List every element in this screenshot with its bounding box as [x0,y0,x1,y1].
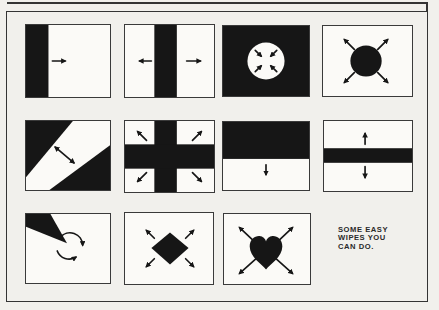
arrow-curved-icon [57,251,76,259]
arrow-double-diagonal-icon [55,147,74,163]
caption-line-3: CAN DO. [338,243,388,251]
arrow-outward-icon [378,40,388,50]
page-top-rule [7,2,428,4]
diagonal-band-wipe-icon [26,121,110,190]
arrow-outward-icon [138,173,147,182]
arrow-outward-icon [345,40,355,50]
arrow-outward-icon [186,231,194,239]
panel-bar-wipe-right [25,24,111,98]
panel-diamond-expand-wipe [124,212,214,285]
panel-cross-expand-wipe [124,120,215,193]
arrow-outward-icon [192,173,201,182]
caption: SOME EASY WIPES YOU CAN DO. [338,226,388,251]
arrow-outward-icon [147,231,155,239]
diamond-expand-wipe-icon [125,213,213,284]
arrow-outward-icon [186,259,194,267]
arrow-outward-icon [378,73,388,83]
band-expand-vertical-icon [324,121,412,191]
heart-icon [250,236,283,269]
panel-half-wipe-down [222,121,310,191]
half-wipe-down-icon [223,122,309,190]
bar-split-wipe-icon [125,25,214,97]
bar-wipe-right-icon [26,25,110,97]
heart-expand-wipe-icon [224,214,310,284]
circle-iris-out-icon [323,26,412,96]
panel-diagonal-band-wipe [25,120,111,191]
clock-wipe-icon [26,214,110,283]
arrow-outward-icon [147,259,155,267]
page: SOME EASY WIPES YOU CAN DO. [0,0,439,310]
panel-circle-iris-out [322,25,413,97]
arrow-outward-icon [345,73,355,83]
panel-clock-wipe [25,213,111,284]
circle-iris-in-icon [223,26,309,96]
arrow-outward-icon [192,132,201,141]
arrow-outward-icon [138,132,147,141]
panel-heart-expand-wipe [223,213,311,285]
cross-expand-wipe-icon [125,121,214,192]
panel-band-expand-vertical [323,120,413,192]
panel-circle-iris-in [222,25,310,97]
panel-bar-split-wipe [124,24,215,98]
